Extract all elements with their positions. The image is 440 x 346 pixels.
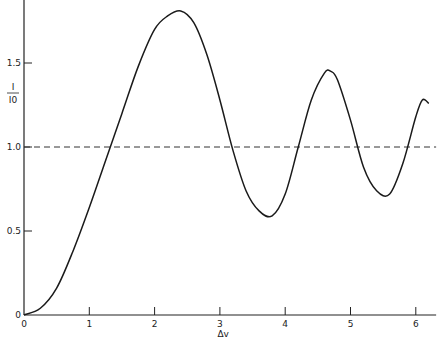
- line-chart: 012345600.51.01.5 ΔvII0: [0, 0, 440, 346]
- y-axis-label-numerator: I: [12, 82, 15, 92]
- x-tick-label: 5: [348, 319, 354, 329]
- intensity-curve: [24, 11, 429, 315]
- y-tick-label: 1.5: [7, 58, 21, 68]
- x-tick-label: 4: [282, 319, 288, 329]
- axes: 012345600.51.01.5: [7, 0, 436, 329]
- y-tick-label: 0: [15, 310, 21, 320]
- y-tick-label: 0.5: [7, 226, 21, 236]
- x-tick-label: 0: [21, 319, 27, 329]
- x-tick-label: 1: [86, 319, 92, 329]
- axis-labels: ΔvII0: [7, 82, 230, 339]
- series-group: [24, 11, 429, 315]
- y-tick-label: 1.0: [7, 142, 22, 152]
- y-axis-label-denominator: I0: [9, 95, 18, 105]
- x-tick-label: 2: [152, 319, 158, 329]
- x-axis-label: Δv: [217, 329, 229, 339]
- x-tick-label: 6: [413, 319, 419, 329]
- x-tick-label: 3: [217, 319, 223, 329]
